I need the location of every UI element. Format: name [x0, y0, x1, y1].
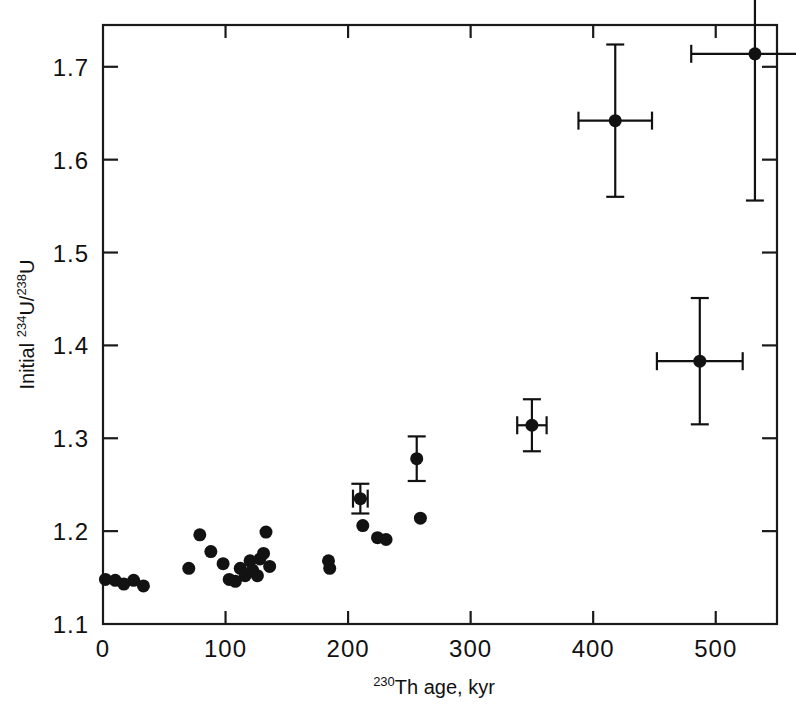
data-point-27	[414, 512, 427, 525]
data-point-30	[693, 355, 706, 368]
x-axis-title: 230Th age, kyr	[373, 674, 495, 698]
data-point-26	[410, 452, 423, 465]
x-tick-label-400: 400	[572, 635, 615, 662]
x-tick-label-300: 300	[449, 635, 492, 662]
data-point-15	[251, 569, 264, 582]
data-point-21	[323, 562, 336, 575]
data-point-28	[525, 419, 538, 432]
data-point-29	[609, 114, 622, 127]
y-tick-label-1.4: 1.4	[53, 332, 89, 359]
data-point-5	[182, 562, 195, 575]
data-point-18	[259, 526, 272, 539]
y-tick-label-1.6: 1.6	[53, 147, 89, 174]
data-point-6	[193, 528, 206, 541]
data-point-22	[354, 492, 367, 505]
y-tick-label-1.2: 1.2	[53, 518, 89, 545]
data-point-31	[748, 47, 761, 60]
y-tick-label-1.7: 1.7	[53, 54, 89, 81]
x-tick-label-0: 0	[96, 635, 110, 662]
y-tick-label-1.3: 1.3	[53, 425, 89, 452]
data-point-25	[380, 533, 393, 546]
x-tick-label-200: 200	[327, 635, 370, 662]
y-axis-title: Initial 234U/238U	[14, 259, 38, 389]
data-point-7	[204, 545, 217, 558]
x-tick-label-500: 500	[694, 635, 737, 662]
y-tick-label-1.5: 1.5	[53, 240, 89, 267]
data-point-4	[137, 579, 150, 592]
data-point-19	[263, 560, 276, 573]
data-point-23	[356, 519, 369, 532]
data-point-17	[257, 547, 270, 560]
x-tick-label-100: 100	[204, 635, 247, 662]
y-tick-label-1.1: 1.1	[53, 611, 89, 638]
scatter-plot-figure: 01002003004005001.11.21.31.41.51.61.7230…	[0, 0, 796, 708]
plot-canvas: 01002003004005001.11.21.31.41.51.61.7230…	[0, 0, 796, 708]
data-point-8	[217, 557, 230, 570]
